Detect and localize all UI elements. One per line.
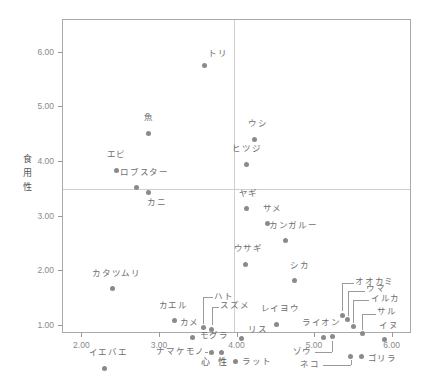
y-axis-tick-label: 2.00 [20,266,54,275]
data-point-label: ウマ [366,284,385,293]
y-axis-tick-label: 5.00 [20,102,54,111]
data-point[interactable] [274,322,279,327]
scatter-plot-page: 食 用 性 心 性 トリ魚ウシヒツジエビロブスターカニヤギサメカンガルーウサギシ… [0,0,431,388]
data-point-label: トリ [208,49,227,58]
data-point-label: ウシ [248,119,267,128]
data-point[interactable] [243,262,248,267]
data-point-label: 魚 [144,113,154,122]
x-axis-tick-label: 5.00 [294,341,334,350]
y-axis-tick [58,161,63,162]
data-point[interactable] [252,137,257,142]
reference-line-horizontal [63,189,410,190]
x-axis-tick [237,332,238,337]
data-point-label: ラット [242,357,271,366]
data-point-label: カエル [159,301,188,310]
y-axis-tick [58,325,63,326]
y-axis-tick-label: 4.00 [20,157,54,166]
data-point[interactable] [190,335,195,340]
reference-line-vertical [234,20,235,332]
leader-line [315,352,332,353]
leader-line [205,352,208,353]
y-axis-tick-label: 1.00 [20,321,54,330]
data-point[interactable] [146,190,151,195]
data-point-label: イヌ [379,321,398,330]
data-point[interactable] [146,131,151,136]
data-point-label: カタツムリ [92,269,141,278]
y-axis-tick [58,216,63,217]
leader-line [362,314,375,315]
data-point-label: サル [377,307,396,316]
data-point[interactable] [360,331,365,336]
y-axis-title-char-3: 性 [20,180,34,194]
data-point[interactable] [330,334,335,339]
data-point-label: ゴリラ [368,354,397,363]
data-point[interactable] [292,278,297,283]
x-axis-tick-label: 6.00 [372,341,412,350]
data-point[interactable] [110,286,115,291]
data-point[interactable] [202,63,207,68]
data-point[interactable] [209,350,214,355]
data-point[interactable] [114,168,119,173]
data-point[interactable] [283,238,288,243]
x-axis-tick-label: 3.00 [139,341,179,350]
x-axis-tick [81,332,82,337]
data-point-label: リス [248,325,267,334]
data-point-label: ヒツジ [232,144,261,153]
data-point[interactable] [345,317,350,322]
leader-line [342,283,343,311]
leader-line [203,297,212,298]
data-point-label: イルカ [371,294,400,303]
data-point[interactable] [244,162,249,167]
leader-line [353,300,369,301]
data-point-label: ライオン [302,318,341,327]
x-axis-tick-label: 2.00 [61,341,101,350]
leader-line [203,297,204,323]
data-point[interactable] [219,350,224,355]
data-point-label: ネコ [300,360,319,369]
leader-line [342,283,354,284]
data-point-label: ハト [214,292,233,301]
y-axis-tick-label: 3.00 [20,212,54,221]
leader-line [353,300,354,323]
leader-line [323,365,351,366]
y-axis-title-char-2: 用 [20,166,34,180]
data-point[interactable] [172,318,177,323]
data-point[interactable] [102,366,107,371]
y-axis-tick [58,106,63,107]
data-point-label: レイヨウ [261,304,300,313]
data-point[interactable] [233,359,238,364]
data-point-label: モグラ [200,331,229,340]
plot-area: トリ魚ウシヒツジエビロブスターカニヤギサメカンガルーウサギシカカタツムリオオカミ… [62,19,411,333]
data-point-label: サメ [263,204,282,213]
leader-line [348,291,349,316]
leader-line [362,314,363,330]
x-axis-tick [314,332,315,337]
data-point[interactable] [351,324,356,329]
data-point[interactable] [244,206,249,211]
leader-line [348,291,365,292]
leader-line [212,307,213,326]
x-axis-title: 心 性 [0,355,431,368]
data-point-label: シカ [290,261,309,270]
x-axis-tick [392,332,393,337]
x-axis-tick-label: 4.00 [217,341,257,350]
data-point-label: スズメ [220,301,249,310]
y-axis-tick [58,270,63,271]
data-point-label: カメ [180,318,199,327]
data-point-label: カンガルー [269,221,318,230]
x-axis-tick [159,332,160,337]
y-axis-tick-label: 6.00 [20,48,54,57]
leader-line [212,307,219,308]
data-point-label: エビ [107,150,126,159]
y-axis-tick [58,52,63,53]
data-point-label: カニ [147,198,166,207]
data-point-label: ロブスター [120,168,169,177]
data-point-label: ヤギ [239,189,258,198]
leader-line [351,360,352,365]
data-point-label: ウサギ [234,244,263,253]
